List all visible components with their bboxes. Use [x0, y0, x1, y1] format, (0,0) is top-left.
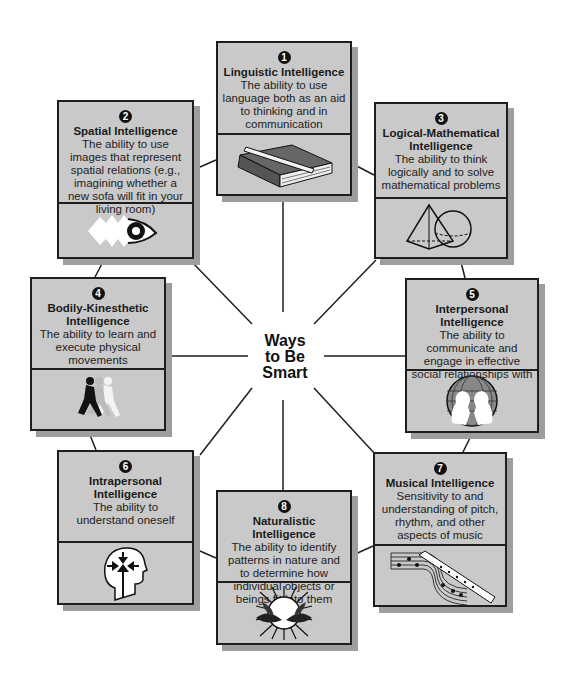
globe-faces-icon	[444, 373, 500, 429]
card-interpersonal: 5 Interpersonal Intelligence The ability…	[405, 278, 539, 433]
card-description: The ability to understand oneself	[63, 501, 188, 527]
book-pencil-icon	[232, 139, 337, 191]
center-line-1: Ways	[243, 333, 327, 349]
number-badge: 3	[435, 112, 448, 125]
number-badge: 7	[434, 462, 447, 475]
card-description: Sensitivity to and understanding of pitc…	[379, 490, 501, 542]
card-description: The ability to learn and execute physica…	[36, 328, 160, 367]
card-linguistic: 1 Linguistic Intelligence The ability to…	[216, 41, 352, 196]
card-title: Spatial Intelligence	[63, 125, 188, 138]
card-title: Linguistic Intelligence	[222, 66, 346, 79]
head-arrows-icon	[101, 544, 151, 602]
card-spatial: 2 Spatial Intelligence The ability to us…	[57, 100, 194, 259]
flute-notes-icon	[383, 547, 498, 605]
number-badge: 4	[92, 287, 105, 300]
number-badge: 5	[466, 288, 479, 301]
number-badge: 6	[119, 460, 132, 473]
runner-icon	[68, 375, 128, 425]
card-title: Intrapersonal Intelligence	[63, 475, 188, 501]
card-title: Musical Intelligence	[379, 477, 501, 490]
card-naturalistic: 8 Naturalistic Intelligence The ability …	[216, 490, 352, 645]
card-intrapersonal: 6 Intrapersonal Intelligence The ability…	[57, 450, 194, 605]
center-label: Ways to Be Smart	[243, 333, 327, 381]
card-bodily-kinesthetic: 4 Bodily-Kinesthetic Intelligence The ab…	[30, 277, 166, 431]
number-badge: 2	[119, 110, 132, 123]
card-title: Bodily-Kinesthetic Intelligence	[36, 302, 160, 328]
card-musical: 7 Musical Intelligence Sensitivity to an…	[373, 452, 507, 607]
number-badge: 1	[278, 51, 291, 64]
card-title: Interpersonal Intelligence	[411, 303, 533, 329]
sun-leaves-icon	[252, 584, 316, 642]
number-badge: 8	[278, 500, 291, 513]
center-line-3: Smart	[243, 365, 327, 381]
card-description: The ability to use language both as an a…	[222, 79, 346, 131]
eye-icon	[86, 211, 166, 251]
center-line-2: to Be	[243, 349, 327, 365]
card-title: Logical-Mathematical Intelligence	[380, 127, 502, 153]
pyramid-sphere-icon	[401, 203, 481, 253]
card-title: Naturalistic Intelligence	[222, 515, 346, 541]
card-logical-mathematical: 3 Logical-Mathematical Intelligence The …	[374, 102, 508, 259]
card-description: The ability to think logically and to so…	[380, 153, 502, 192]
